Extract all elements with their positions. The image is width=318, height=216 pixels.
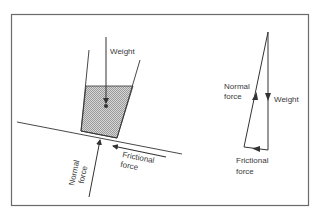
triangle-weight-label: Weight bbox=[274, 95, 300, 104]
triangle-friction-label-line2: force bbox=[236, 167, 254, 176]
centre-of-mass-dot bbox=[104, 104, 108, 108]
force-diagram: Weight Normal force Frictional force Nor… bbox=[0, 0, 318, 216]
triangle-friction-label-line1: Frictional bbox=[236, 156, 269, 165]
triangle-normal-label-line1: Normal bbox=[224, 82, 250, 91]
triangle-normal-label-line2: force bbox=[224, 92, 242, 101]
weight-label: Weight bbox=[110, 47, 136, 56]
diagram-frame bbox=[12, 15, 309, 206]
